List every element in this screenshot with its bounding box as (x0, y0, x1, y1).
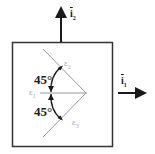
axis-i1-label: i1 (121, 76, 127, 88)
gauge-e3-subscript: 3 (76, 123, 79, 129)
axis-i2-subscript: 2 (73, 15, 76, 21)
gauge-e2-subscript: 2 (68, 64, 71, 70)
axis-i2-label: i2 (70, 9, 76, 21)
axis-i1-arrow (118, 87, 147, 99)
rosette-diagram (0, 0, 155, 154)
axis-i2-arrow (55, 6, 67, 42)
gauge-e2-label: ε2 (64, 59, 71, 70)
specimen-frame (13, 43, 113, 147)
gauge-e1-subscript: 1 (33, 93, 36, 99)
angle-label-upper: 45° (34, 73, 52, 86)
gauge-e1-label: ε1 (29, 88, 36, 99)
angle-label-lower: 45° (34, 105, 52, 118)
axis-i1-subscript: 1 (124, 82, 127, 88)
gauge-e3-label: ε3 (72, 118, 79, 129)
